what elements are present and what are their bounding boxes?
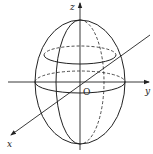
x-axis bbox=[11, 35, 150, 135]
ellipsoid-diagram: z y x O bbox=[0, 0, 153, 154]
z-axis-label: z bbox=[69, 2, 75, 12]
origin-label: O bbox=[83, 87, 90, 97]
x-axis-label: x bbox=[7, 139, 12, 149]
y-axis-label: y bbox=[144, 86, 151, 96]
